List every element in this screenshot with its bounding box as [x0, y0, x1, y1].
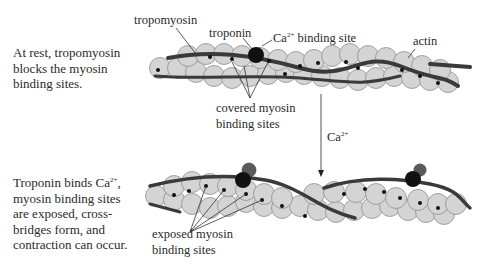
- label-exposed-myosin-binding-sites: exposed myosin binding sites: [152, 226, 233, 258]
- active-caption-line: are exposed, cross-: [13, 206, 127, 222]
- label-ca-binding-site: Ca2+ binding site: [273, 31, 356, 45]
- caption-text: ,: [118, 175, 121, 190]
- binding-site-text: binding site: [294, 31, 356, 45]
- label-troponin: troponin: [209, 26, 251, 40]
- exposed-line: binding sites: [152, 242, 233, 258]
- rest-caption-line: At rest, tropomyosin: [13, 45, 120, 61]
- rest-state-caption: At rest, tropomyosin blocks the myosin b…: [13, 45, 120, 92]
- covered-line: covered myosin: [216, 100, 296, 116]
- label-actin: actin: [413, 34, 437, 48]
- label-covered-myosin-binding-sites: covered myosin binding sites: [216, 100, 296, 132]
- label-calcium-arrow: Ca2+: [327, 130, 348, 144]
- calcium-arrow: [318, 94, 324, 177]
- ca-prefix: Ca: [273, 31, 287, 45]
- rest-caption-line: binding sites.: [13, 76, 120, 92]
- covered-line: binding sites: [216, 116, 296, 132]
- active-caption-line: myosin binding sites: [13, 191, 127, 207]
- rest-caption-line: blocks the myosin: [13, 61, 120, 77]
- exposed-line: exposed myosin: [152, 226, 233, 242]
- active-caption-line: Troponin binds Ca2+,: [13, 175, 127, 191]
- ca-superscript: 2+: [341, 130, 348, 138]
- active-caption-line: contraction can occur.: [13, 237, 127, 253]
- label-tropomyosin: tropomyosin: [134, 13, 197, 27]
- active-caption-line: bridges form, and: [13, 222, 127, 238]
- active-state-caption: Troponin binds Ca2+, myosin binding site…: [13, 175, 127, 253]
- ca-superscript: 2+: [110, 176, 117, 184]
- ca-prefix: Ca: [327, 130, 341, 144]
- troponin-rest: [248, 47, 264, 63]
- caption-text: Troponin binds Ca: [13, 175, 110, 190]
